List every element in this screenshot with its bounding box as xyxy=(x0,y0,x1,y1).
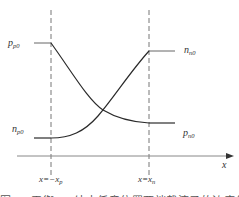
x-axis-label: x xyxy=(221,159,227,170)
pn-junction-diagram: pp0 np0 nn0 pn0 x x=−xp x=xn xyxy=(0,0,239,197)
label-p-p0: pp0 xyxy=(7,37,20,49)
label-p-n0: pn0 xyxy=(182,127,195,139)
hole-concentration-curve xyxy=(51,43,149,123)
boundary-left-label: x=−xp xyxy=(38,174,63,185)
x-axis-arrow-icon xyxy=(226,153,234,159)
figure-caption-text: 图 ... 平衡 ... 结中任意位置两端载流子的浓度分布 xyxy=(0,192,239,197)
figure-caption-fragment: 图 ... 平衡 ... 结中任意位置两端载流子的浓度分布 xyxy=(0,190,239,197)
label-n-n0: nn0 xyxy=(184,44,196,56)
label-n-p0: np0 xyxy=(12,123,24,135)
boundary-right-label: x=xn xyxy=(137,174,155,185)
